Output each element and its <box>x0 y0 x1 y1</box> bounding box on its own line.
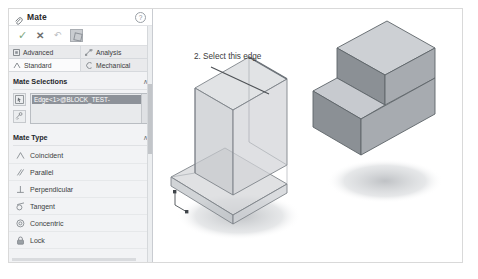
multiple-mate-button[interactable] <box>13 110 26 123</box>
mechanical-icon <box>85 62 93 69</box>
model-scene <box>153 9 462 262</box>
mate-type-tangent[interactable]: Tangent <box>9 198 152 215</box>
parallel-icon <box>16 168 25 177</box>
mate-paperclip-icon <box>13 12 23 22</box>
analysis-icon <box>85 49 93 56</box>
panel-horizontal-scrollbar[interactable] <box>12 258 136 261</box>
mate-type-tangent-label: Tangent <box>30 203 55 210</box>
mate-type-lock-label: Lock <box>30 237 45 244</box>
coincident-icon <box>16 151 25 160</box>
panel-title: Mate <box>27 12 47 22</box>
selection-filter-button[interactable] <box>13 93 26 106</box>
tangent-icon <box>16 202 25 211</box>
mate-tabs-row-advanced: Advanced Analysis <box>9 46 152 59</box>
lock-icon <box>16 236 25 245</box>
standard-icon <box>13 62 21 69</box>
panel-action-bar: ✓ ✕ ↶ <box>9 26 152 46</box>
mate-type-parallel[interactable]: Parallel <box>9 164 152 181</box>
mate-type-list: Coincident Parallel Perpendicular <box>9 146 152 249</box>
mate-type-parallel-label: Parallel <box>30 169 53 176</box>
panel-scrollbar[interactable] <box>147 26 152 262</box>
mate-selections-body: Edge<1>@BLOCK_TEST- <box>9 90 152 124</box>
tab-analysis-label: Analysis <box>96 49 121 56</box>
mate-type-perpendicular-label: Perpendicular <box>30 186 73 193</box>
panel-header: Mate ? <box>9 9 152 26</box>
mate-type-lock[interactable]: Lock <box>9 232 152 249</box>
tab-mechanical[interactable]: Mechanical <box>81 59 152 72</box>
transparent-step-block[interactable] <box>171 57 287 224</box>
application-window: Mate ? ✓ ✕ ↶ Advanced <box>8 8 463 263</box>
mate-type-title: Mate Type <box>13 133 48 142</box>
mate-type-concentric[interactable]: Concentric <box>9 215 152 232</box>
mate-tabs-row-standard: Standard Mechanical <box>9 59 152 72</box>
concentric-icon <box>16 219 25 228</box>
mate-selections-buttons <box>13 93 27 124</box>
mate-selections-list[interactable]: Edge<1>@BLOCK_TEST- <box>30 93 148 124</box>
cancel-button[interactable]: ✕ <box>34 30 46 42</box>
graphics-viewport[interactable]: 2. Select this edge <box>153 9 462 262</box>
tab-mechanical-label: Mechanical <box>96 62 130 69</box>
undo-button[interactable]: ↶ <box>52 30 64 42</box>
ok-button[interactable]: ✓ <box>16 30 28 42</box>
multi-mate-icon <box>15 112 24 121</box>
pointer-box-icon <box>15 95 24 104</box>
mate-type-coincident-label: Coincident <box>30 152 63 159</box>
mate-type-header[interactable]: Mate Type ∧ <box>9 131 152 144</box>
tab-advanced-label: Advanced <box>23 49 53 56</box>
callout-text: 2. Select this edge <box>194 52 261 61</box>
mate-selections-header[interactable]: Mate Selections ∧ <box>9 75 152 88</box>
list-item[interactable]: Edge<1>@BLOCK_TEST- <box>32 95 146 104</box>
mate-type-concentric-label: Concentric <box>30 220 63 227</box>
tab-analysis[interactable]: Analysis <box>81 46 152 59</box>
mate-type-perpendicular[interactable]: Perpendicular <box>9 181 152 198</box>
tab-standard[interactable]: Standard <box>9 59 81 72</box>
tab-advanced[interactable]: Advanced <box>9 46 81 59</box>
keep-visible-button[interactable] <box>70 29 83 42</box>
help-icon[interactable]: ? <box>135 12 146 23</box>
mate-type-coincident[interactable]: Coincident <box>9 147 152 164</box>
tab-standard-label: Standard <box>24 62 52 69</box>
mate-selections-title: Mate Selections <box>13 77 67 86</box>
panel-scrollbar-thumb[interactable] <box>148 84 152 154</box>
mate-property-manager: Mate ? ✓ ✕ ↶ Advanced <box>9 9 153 262</box>
perpendicular-icon <box>16 185 25 194</box>
solid-step-block[interactable] <box>313 21 435 155</box>
advanced-icon <box>13 49 20 56</box>
